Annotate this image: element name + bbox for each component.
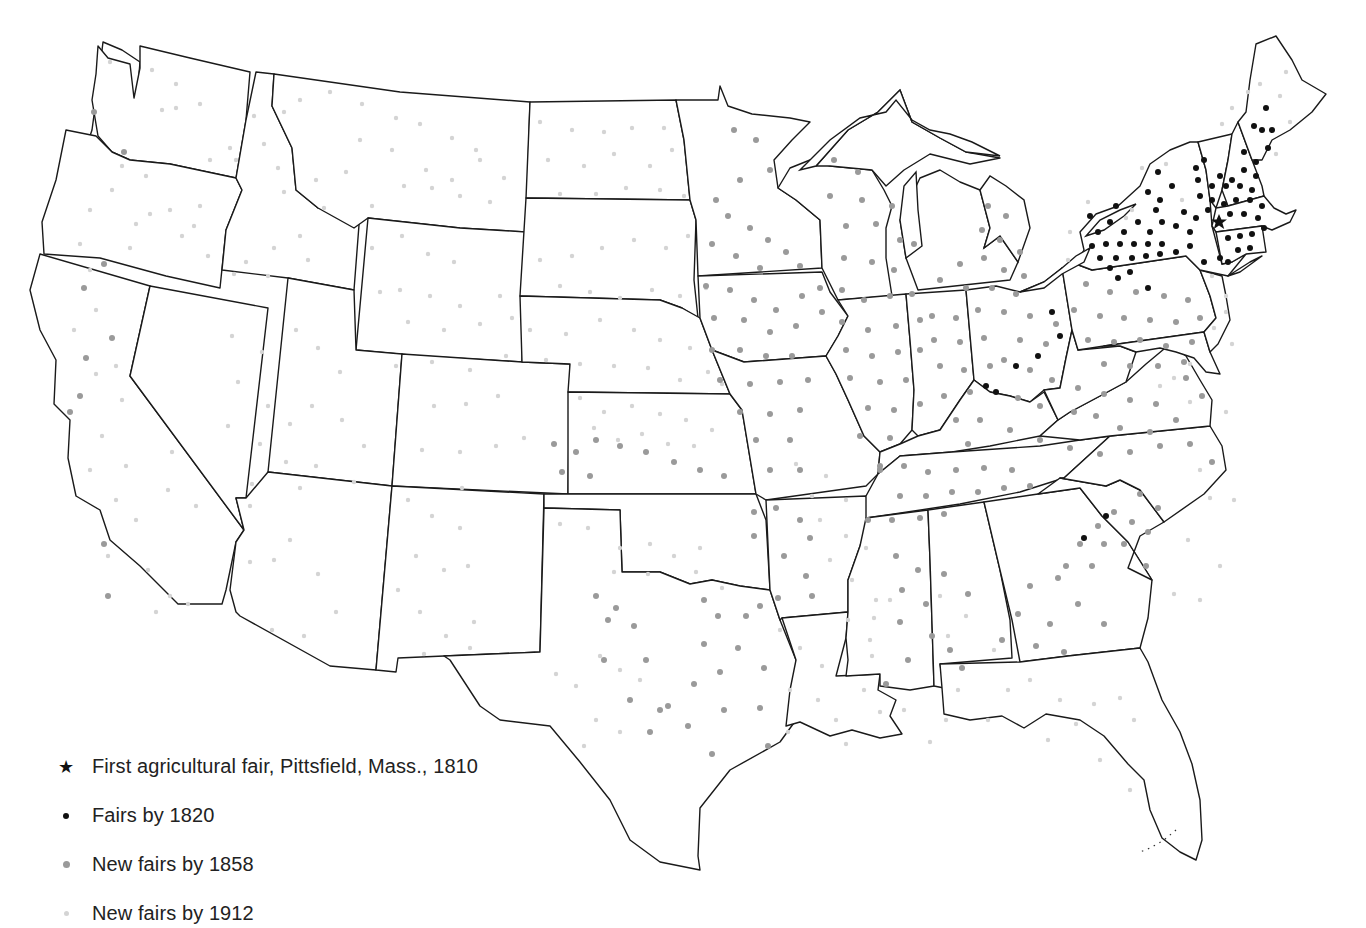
fair-dot <box>110 188 114 192</box>
fair-dot <box>698 546 702 550</box>
fair-dot <box>394 116 398 120</box>
fair-dot <box>887 293 893 299</box>
fair-dot <box>847 375 853 381</box>
fair-dot <box>1145 189 1151 195</box>
fair-dot <box>1155 169 1161 175</box>
fair-dot <box>378 290 382 294</box>
fair-dot <box>1181 359 1187 365</box>
fair-dot <box>857 433 863 439</box>
fair-dot <box>1071 307 1077 313</box>
fair-dot <box>638 678 642 682</box>
fair-dot <box>664 246 668 250</box>
fair-dot <box>180 234 184 238</box>
fair-dot <box>967 389 973 395</box>
fair-dot <box>947 647 953 653</box>
fair-dot <box>1288 120 1292 124</box>
fair-dot <box>522 436 526 440</box>
fair-dot <box>646 572 650 576</box>
fair-dot <box>775 595 781 601</box>
fair-dot <box>450 136 454 140</box>
legend-label: First agricultural fair, Pittsfield, Mas… <box>92 755 478 778</box>
fair-dot <box>1015 395 1021 401</box>
fair-dot <box>632 238 636 242</box>
fair-dot <box>1237 233 1243 239</box>
fair-dot <box>478 158 482 162</box>
fair-dot <box>757 603 763 609</box>
fair-dot <box>1227 211 1233 217</box>
fair-dot <box>67 409 73 415</box>
fair-dot <box>198 102 202 106</box>
fair-dot <box>1103 513 1109 519</box>
fair-dot <box>807 535 813 541</box>
fair-dot <box>1172 376 1176 380</box>
fair-dot <box>618 730 622 734</box>
fair-dot <box>1253 173 1259 179</box>
fair-dot <box>1251 123 1257 129</box>
fair-dot <box>558 192 562 196</box>
fair-dot <box>1210 274 1214 278</box>
fair-dot <box>1075 601 1081 607</box>
fair-dot <box>869 353 875 359</box>
fair-dot <box>1205 207 1211 213</box>
fair-dot <box>1246 90 1250 94</box>
fair-dot <box>1212 326 1216 330</box>
fair-dot <box>558 522 562 526</box>
fair-dot <box>613 605 619 611</box>
fair-dot <box>1161 293 1167 299</box>
fair-dot <box>284 460 288 464</box>
fair-dot <box>244 260 248 264</box>
fair-dot <box>334 610 338 614</box>
fair-dot <box>1017 337 1023 343</box>
fair-dot <box>108 60 112 64</box>
fair-dot <box>617 443 623 449</box>
fair-dot <box>727 287 733 293</box>
fair-dot <box>1046 738 1050 742</box>
fair-dot <box>981 335 987 341</box>
fair-dot <box>328 90 332 94</box>
fair-dot <box>144 174 148 178</box>
fair-dot <box>1145 529 1151 535</box>
fair-dot <box>1265 145 1271 151</box>
fair-dot <box>721 473 727 479</box>
state-iowa <box>698 272 848 362</box>
fair-dot <box>593 593 599 599</box>
fair-dot <box>1007 427 1013 433</box>
fair-dot <box>1003 213 1009 219</box>
fair-dot <box>797 517 803 523</box>
fair-dot <box>538 120 542 124</box>
fair-dot <box>1001 357 1007 363</box>
fair-dot <box>827 193 833 199</box>
fair-dot <box>658 338 662 342</box>
fair-dot <box>272 246 276 250</box>
fair-dot <box>1077 541 1083 547</box>
fair-dot <box>1187 229 1193 235</box>
fair-dot <box>938 594 942 598</box>
fair-dot <box>430 186 434 190</box>
fair-dot <box>1201 157 1207 163</box>
fair-dot <box>232 272 236 276</box>
fair-dot <box>1043 341 1049 347</box>
legend-label: New fairs by 1912 <box>92 902 254 925</box>
fair-dot <box>997 237 1003 243</box>
fair-dot <box>773 505 779 511</box>
fair-dot <box>799 293 805 299</box>
fair-dot <box>124 464 128 468</box>
fair-dot <box>797 407 803 413</box>
legend-item-first-fair: ★ First agricultural fair, Pittsfield, M… <box>52 742 652 791</box>
fair-dot <box>1086 200 1090 204</box>
fair-dot <box>1143 253 1149 259</box>
fair-dot <box>1143 563 1149 569</box>
fair-dot <box>1201 259 1207 265</box>
fair-dot <box>1013 291 1019 297</box>
fair-dot <box>703 283 709 289</box>
fair-dot <box>1198 598 1202 602</box>
fair-dot <box>414 554 418 558</box>
fair-dot <box>578 396 582 400</box>
fair-dot <box>843 223 849 229</box>
fair-dot <box>1128 788 1132 792</box>
fair-dot <box>1173 223 1179 229</box>
fair-dot <box>1075 385 1081 391</box>
fair-dot <box>662 126 666 130</box>
fair-dot <box>1001 309 1007 315</box>
fair-dot <box>1263 105 1269 111</box>
